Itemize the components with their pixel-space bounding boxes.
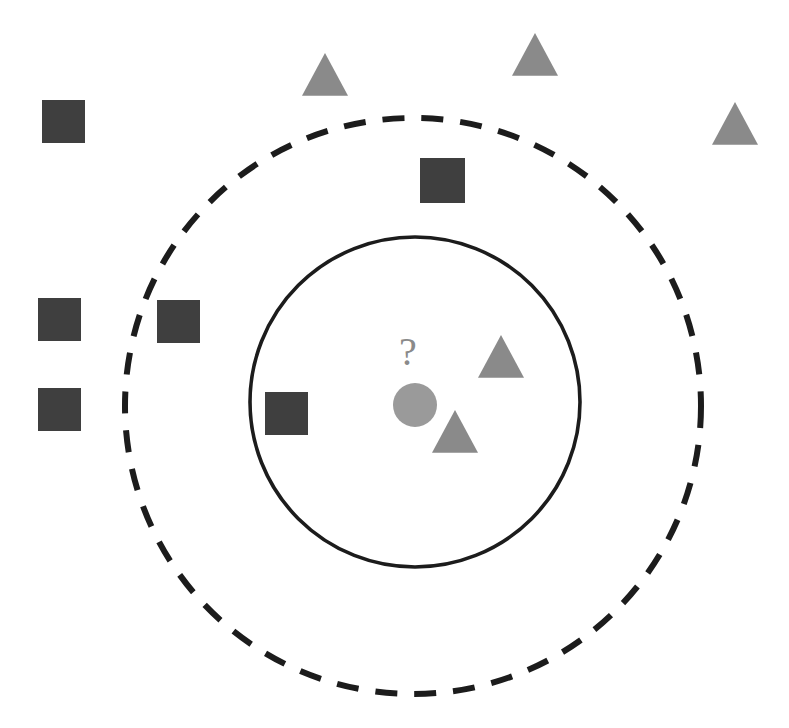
knn-diagram: ?: [0, 0, 789, 728]
data-point-triangle: [478, 335, 524, 378]
data-points: [38, 33, 758, 453]
query-label: ?: [399, 329, 417, 374]
data-point-triangle: [712, 102, 758, 145]
data-point-square: [38, 388, 81, 431]
data-point-triangle: [512, 33, 558, 76]
data-point-square: [420, 158, 465, 203]
query-point-marker: [393, 383, 437, 427]
data-point-triangle: [432, 410, 478, 453]
data-point-triangle: [302, 53, 348, 96]
data-point-square: [265, 392, 308, 435]
diagram-canvas: ?: [0, 0, 789, 728]
data-point-square: [157, 300, 200, 343]
query-group: ?: [393, 329, 437, 427]
data-point-square: [38, 298, 81, 341]
data-point-square: [42, 100, 85, 143]
